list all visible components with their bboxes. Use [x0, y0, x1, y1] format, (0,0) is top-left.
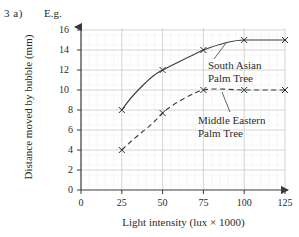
x-tick-label: 0 — [69, 198, 93, 208]
series-annotation-line: Palm Tree — [208, 72, 261, 85]
series-annotation-line: Palm Tree — [198, 127, 266, 140]
x-tick-label: 100 — [232, 198, 256, 208]
y-tick-label: 12 — [53, 65, 69, 75]
series-annotation-middle-eastern: Middle Eastern Palm Tree — [198, 114, 266, 140]
figure-root: 3 a) E.g. — [0, 0, 299, 237]
x-tick-label: 125 — [273, 198, 297, 208]
x-tick-label: 50 — [151, 198, 175, 208]
major-gridlines-horizontal — [81, 30, 285, 170]
y-tick-label: 4 — [57, 145, 73, 155]
x-tick-label: 75 — [191, 198, 215, 208]
y-tick-label: 16 — [53, 25, 69, 35]
y-tick-label: 0 — [57, 185, 73, 195]
series-annotation-line: South Asian — [208, 59, 261, 72]
y-tick-label: 6 — [57, 125, 73, 135]
x-axis-label: Light intensity (lux × 1000) — [81, 216, 286, 228]
series-annotation-south-asian: South Asian Palm Tree — [208, 59, 261, 85]
y-tick-label: 10 — [53, 85, 69, 95]
x-tick-label: 25 — [110, 198, 134, 208]
y-axis-label: Distance moved by bubble (mm) — [22, 27, 34, 187]
series-annotation-line: Middle Eastern — [198, 114, 266, 127]
y-tick-label: 8 — [57, 105, 73, 115]
y-tick-label: 14 — [53, 45, 69, 55]
y-tick-label: 2 — [57, 165, 73, 175]
